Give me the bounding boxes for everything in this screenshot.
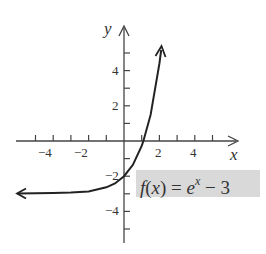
y-tick-label-4: 4 [112,63,119,78]
x-tick-label-neg2: −2 [74,145,88,160]
graph-canvas: −4 −2 2 4 4 2 −2 −4 x y [0,0,266,254]
x-tick-label-4: 4 [190,145,197,160]
function-variable: x [152,177,160,198]
y-tick-label-neg4: −4 [105,203,119,218]
function-exponent: x [195,174,200,188]
x-axis-label: x [229,145,238,164]
y-axis-label: y [102,19,112,38]
function-label-box: f(x) = ex − 3 [136,170,260,197]
y-tick-label-neg2: −2 [105,168,119,183]
y-tick-label-2: 2 [112,98,119,113]
x-tick-label-2: 2 [155,145,162,160]
y-axis [119,26,129,243]
function-paren-close: ) = [160,177,187,198]
function-constant: − 3 [200,177,230,198]
function-base: e [187,177,195,198]
x-tick-label-neg4: −4 [38,145,52,160]
